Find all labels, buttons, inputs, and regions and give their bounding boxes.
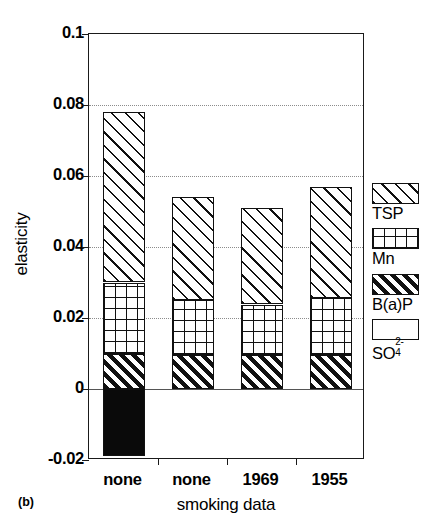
legend-swatch-dense-diagonal-hatch [372, 274, 419, 295]
bar-segment-tsp[interactable] [172, 197, 214, 300]
legend-item[interactable]: TSP [372, 183, 436, 222]
x-tick-mark [158, 458, 159, 465]
y-tick-label: 0.08 [20, 95, 84, 112]
bar-segment-bap[interactable] [103, 354, 145, 390]
legend-label: B(a)P [372, 296, 436, 313]
bar-segment-mn[interactable] [241, 305, 283, 356]
bar-segment-mn[interactable] [103, 283, 145, 354]
x-tick-label: 1969 [221, 470, 301, 489]
bar-segment-tsp[interactable] [310, 187, 352, 299]
y-tick-mark [82, 389, 89, 390]
y-tick-mark [82, 247, 89, 248]
y-tick-mark [82, 176, 89, 177]
bar-segment-so4[interactable] [103, 389, 145, 456]
y-tick-mark [82, 460, 89, 461]
panel-label: (b) [18, 495, 34, 509]
bar-segment-mn[interactable] [310, 298, 352, 355]
y-tick-label: -0.02 [20, 450, 84, 467]
bar-segment-bap[interactable] [241, 355, 283, 389]
x-tick-label: none [83, 470, 163, 489]
y-axis-tick-labels: 0.10.080.060.040.020-0.02 [14, 0, 84, 532]
legend-label: SO2-4 [372, 341, 436, 362]
legend-item[interactable]: B(a)P [372, 274, 436, 313]
legend-swatch-grid-crosshatch [372, 228, 419, 249]
gridline [89, 105, 363, 106]
y-tick-mark [82, 34, 89, 35]
plot-area [88, 33, 364, 459]
x-tick-mark [296, 458, 297, 465]
bar-segment-tsp[interactable] [103, 112, 145, 282]
bar-segment-bap[interactable] [310, 355, 352, 389]
x-tick-mark [227, 458, 228, 465]
legend-swatch-diagonal-hatch [372, 183, 419, 204]
y-tick-label: 0.1 [20, 24, 84, 41]
plot-inner [89, 34, 363, 458]
y-tick-mark [82, 318, 89, 319]
x-tick-label: 1955 [290, 470, 370, 489]
x-tick-label: none [152, 470, 232, 489]
bar-segment-tsp[interactable] [241, 208, 283, 305]
legend: TSPMnB(a)PSO2-4 [372, 183, 436, 368]
legend-label: Mn [372, 250, 436, 267]
y-tick-label: 0.02 [20, 308, 84, 325]
legend-item[interactable]: SO2-4 [372, 319, 436, 362]
x-axis-label: smoking data [88, 495, 364, 515]
legend-item[interactable]: Mn [372, 228, 436, 267]
y-tick-label: 0 [20, 379, 84, 396]
legend-label: TSP [372, 205, 436, 222]
bar-segment-mn[interactable] [172, 300, 214, 355]
y-tick-label: 0.06 [20, 166, 84, 183]
y-tick-label: 0.04 [20, 237, 84, 254]
figure-panel-b: elasticity 0.10.080.060.040.020-0.02 non… [0, 0, 441, 532]
y-tick-mark [82, 105, 89, 106]
bar-segment-bap[interactable] [172, 355, 214, 389]
